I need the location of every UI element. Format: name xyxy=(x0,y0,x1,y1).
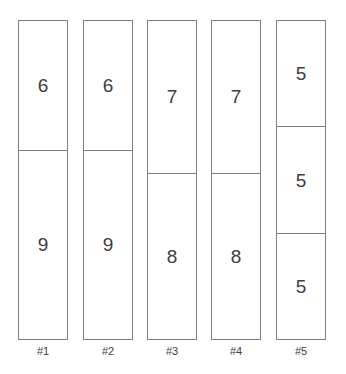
bar-3: 7 8 xyxy=(147,20,197,340)
bar-label-1: #1 xyxy=(18,345,68,357)
segment-top: 5 xyxy=(277,21,325,126)
segment-top: 6 xyxy=(19,21,67,150)
bar-2: 6 9 xyxy=(83,20,133,340)
segment-value: 6 xyxy=(38,75,49,97)
segment-value: 6 xyxy=(103,75,114,97)
segment-top: 6 xyxy=(84,21,132,150)
segment-middle: 5 xyxy=(277,126,325,234)
segment-value: 5 xyxy=(296,63,307,85)
bar-4: 7 8 xyxy=(211,20,261,340)
bar-5: 5 5 5 xyxy=(276,20,326,340)
bar-label-2: #2 xyxy=(83,345,133,357)
segment-value: 9 xyxy=(103,234,114,256)
segment-value: 5 xyxy=(296,170,307,192)
segment-value: 9 xyxy=(38,234,49,256)
segment-value: 8 xyxy=(167,246,178,268)
segment-top: 7 xyxy=(148,21,196,173)
segment-bottom: 8 xyxy=(212,173,260,339)
segment-value: 7 xyxy=(167,86,178,108)
bar-label-3: #3 xyxy=(147,345,197,357)
segment-bottom: 8 xyxy=(148,173,196,339)
segment-bottom: 5 xyxy=(277,233,325,339)
bar-1: 6 9 xyxy=(18,20,68,340)
segment-value: 7 xyxy=(231,86,242,108)
segment-value: 5 xyxy=(296,276,307,298)
segment-bottom: 9 xyxy=(19,150,67,339)
bar-label-4: #4 xyxy=(211,345,261,357)
segment-bottom: 9 xyxy=(84,150,132,339)
segment-top: 7 xyxy=(212,21,260,173)
bar-label-5: #5 xyxy=(276,345,326,357)
segment-value: 8 xyxy=(231,246,242,268)
